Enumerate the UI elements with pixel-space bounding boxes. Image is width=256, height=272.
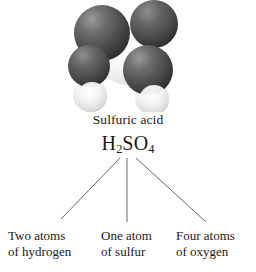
callout-oxygen: Four atoms of oxygen (176, 228, 235, 259)
formula-h-subscript: 2 (116, 142, 122, 156)
atom-hydrogen-left-front (77, 82, 107, 112)
formula-so: SO (122, 132, 148, 154)
atom-oxygen-top-right (130, 0, 178, 48)
callout-sulfur-line1: One atom (101, 228, 152, 243)
leader-oxygen-line (136, 158, 206, 222)
chemical-formula: H2SO4 (0, 131, 256, 158)
sulfuric-acid-figure: Sulfuric acid H2SO4 Two atoms of hydroge… (0, 0, 256, 272)
formula-h: H (101, 132, 116, 154)
atom-oxygen-lower-left (68, 45, 110, 87)
callout-sulfur-line2: of sulfur (101, 244, 152, 260)
callout-hydrogen: Two atoms of hydrogen (8, 228, 71, 259)
callout-hydrogen-line1: Two atoms (8, 228, 65, 243)
callout-oxygen-line1: Four atoms (176, 228, 235, 243)
compound-name: Sulfuric acid (0, 112, 256, 128)
formula-o-subscript: 4 (148, 142, 154, 156)
molecule-diagram (0, 0, 256, 112)
leader-hydrogen-line (61, 158, 120, 219)
callout-hydrogen-line2: of hydrogen (8, 244, 71, 260)
callout-oxygen-line2: of oxygen (176, 244, 235, 260)
callout-sulfur: One atom of sulfur (101, 228, 152, 259)
